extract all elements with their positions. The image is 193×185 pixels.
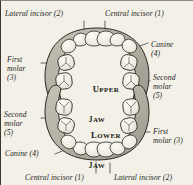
label-second-molar-right-line1: Second (153, 73, 176, 82)
label-first-molar-right: Firstmolar (3) (153, 127, 183, 145)
label-canine-right-line2: (4) (151, 49, 160, 58)
label-first-molar-right-line2: molar (3) (153, 136, 183, 145)
label-first-molar-left-line2: molar (7, 64, 26, 73)
lower-jaw-label-line2: JAW (71, 161, 123, 170)
lower-jaw-label-line1: LOWER (91, 130, 121, 140)
dental-diagram-figure: Lateral incisor (2) Central incisor (1) … (0, 0, 193, 185)
lower-jaw-label: LOWER JAW (71, 106, 123, 185)
label-canine-left: Canine (4) (5, 149, 39, 158)
label-second-molar-right-line2: molar (153, 82, 172, 91)
label-first-molar-left-line3: (3) (7, 73, 16, 82)
label-second-molar-right: Secondmolar(5) (153, 73, 176, 101)
label-first-molar-right-line1: First (153, 127, 168, 136)
label-second-molar-left-line1: Second (4, 110, 27, 119)
label-canine-right-line1: Canine (151, 40, 174, 49)
label-first-molar-left-line1: First (7, 55, 22, 64)
label-second-molar-left-line3: (5) (4, 128, 13, 137)
label-second-molar-left-line2: molar (4, 119, 23, 128)
label-lateral-incisor-top-left: Lateral incisor (2) (5, 9, 63, 18)
label-second-molar-left: Secondmolar(5) (4, 110, 27, 138)
label-second-molar-right-line3: (5) (153, 91, 162, 100)
upper-jaw-label-line1: UPPER (93, 84, 120, 94)
label-canine-right: Canine(4) (151, 40, 174, 58)
label-central-incisor-top-right: Central incisor (1) (105, 9, 164, 18)
label-first-molar-left: Firstmolar(3) (7, 55, 26, 83)
